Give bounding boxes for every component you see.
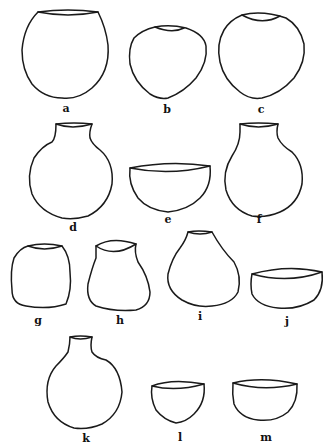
vessel-i-drawing [168,231,240,306]
vessel-m-label: m [260,432,272,443]
vessel-f-label: f [257,214,262,225]
vessel-j-label: j [285,316,289,327]
vessel-b-label: b [163,104,171,115]
vessel-k-drawing [47,336,122,429]
vessel-e-drawing [130,163,211,212]
vessel-d-drawing [29,123,112,219]
vessel-h-drawing [88,240,150,310]
vessel-g-drawing [11,244,70,308]
vessel-e-label: e [165,214,172,225]
vessel-m-drawing [233,380,297,421]
vessel-d-label: d [69,222,77,233]
vessel-g-label: g [34,315,42,326]
vessel-f-drawing [225,123,302,217]
vessel-j-drawing [251,268,322,308]
vessel-a-label: a [62,103,69,114]
vessel-i-label: i [198,311,202,322]
vessel-l-label: l [178,432,182,443]
vessel-c-drawing [219,13,305,98]
vessel-c-label: c [258,104,265,115]
vessel-k-label: k [82,433,90,444]
pottery-figure: a b c d e f g h i j k l m [0,0,328,448]
vessel-b-drawing [130,26,207,99]
vessel-a-drawing [22,10,108,98]
vessel-l-drawing [152,381,205,423]
vessel-h-label: h [116,315,124,326]
